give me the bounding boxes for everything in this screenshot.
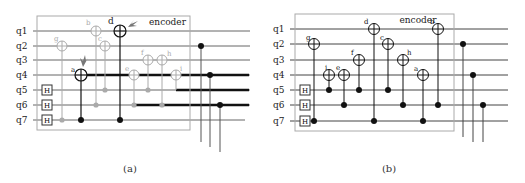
svg-text:g: g	[306, 34, 311, 42]
panel-a-encoder-label: encoder	[149, 17, 187, 27]
svg-text:d: d	[364, 18, 369, 26]
svg-text:e: e	[336, 64, 340, 72]
svg-text:q6: q6	[273, 100, 285, 110]
svg-text:c: c	[98, 35, 102, 43]
svg-text:b: b	[86, 19, 91, 27]
svg-text:H: H	[302, 102, 308, 110]
svg-text:q1: q1	[16, 26, 28, 36]
panel-a: encoder q1 q2 q3 q4 q5 q6 q7 H H H	[16, 16, 250, 174]
quantum-circuit-figure: encoder q1 q2 q3 q4 q5 q6 q7 H H H	[0, 0, 525, 183]
panel-a-caption: (a)	[123, 163, 137, 174]
svg-text:q4: q4	[273, 70, 285, 80]
panel-a-label-a: a	[71, 66, 75, 74]
panel-b: encoder q1 q2 q3 q4 q5 q6 q7 H H H	[273, 14, 508, 174]
svg-text:H: H	[44, 102, 50, 110]
svg-text:b: b	[430, 18, 435, 26]
svg-text:a: a	[414, 65, 418, 73]
svg-text:e: e	[125, 65, 129, 73]
svg-text:g: g	[54, 35, 59, 43]
svg-text:q4: q4	[16, 70, 28, 80]
panel-b-caption: (b)	[382, 163, 396, 174]
svg-text:f: f	[141, 49, 145, 57]
svg-text:q1: q1	[273, 24, 285, 34]
svg-text:q5: q5	[273, 85, 285, 95]
panel-b-cnot-gates	[309, 24, 444, 122]
svg-text:q2: q2	[16, 41, 28, 51]
svg-text:H: H	[44, 87, 50, 95]
svg-text:H: H	[302, 87, 308, 95]
svg-text:q5: q5	[16, 85, 28, 95]
svg-text:f: f	[351, 49, 355, 57]
svg-text:i: i	[180, 65, 183, 73]
svg-text:H: H	[302, 118, 308, 126]
panel-b-hadamard-gates: H H H	[300, 85, 310, 126]
panel-a-hadamard-gates: H H H	[42, 85, 52, 125]
svg-text:q3: q3	[16, 55, 28, 65]
panel-b-wire-labels: q1 q2 q3 q4 q5 q6 q7	[273, 24, 285, 126]
svg-text:h: h	[407, 49, 412, 57]
svg-text:q7: q7	[16, 115, 28, 125]
svg-text:q7: q7	[273, 116, 285, 126]
panel-b-outer-lines	[463, 44, 483, 142]
svg-text:H: H	[44, 117, 50, 125]
svg-text:q3: q3	[273, 55, 285, 65]
svg-text:q6: q6	[16, 100, 28, 110]
svg-text:h: h	[167, 50, 172, 58]
svg-text:c: c	[380, 34, 384, 42]
panel-a-label-d: d	[108, 16, 114, 26]
panel-a-outer-lines	[201, 46, 220, 152]
panel-a-encoder-box	[37, 16, 190, 130]
svg-text:q2: q2	[273, 39, 285, 49]
panel-a-wire-labels: q1 q2 q3 q4 q5 q6 q7	[16, 26, 28, 125]
